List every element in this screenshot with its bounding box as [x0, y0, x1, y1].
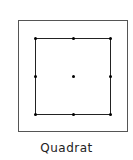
point-bottom-right: [109, 113, 112, 116]
point-middle-right: [109, 75, 112, 78]
caption: Quadrat: [0, 141, 133, 155]
point-middle-left: [34, 75, 37, 78]
point-bottom-left: [34, 113, 37, 116]
point-center: [72, 75, 75, 78]
point-bottom-center: [72, 113, 75, 116]
point-top-left: [34, 37, 37, 40]
point-top-right: [109, 37, 112, 40]
point-top-center: [72, 37, 75, 40]
